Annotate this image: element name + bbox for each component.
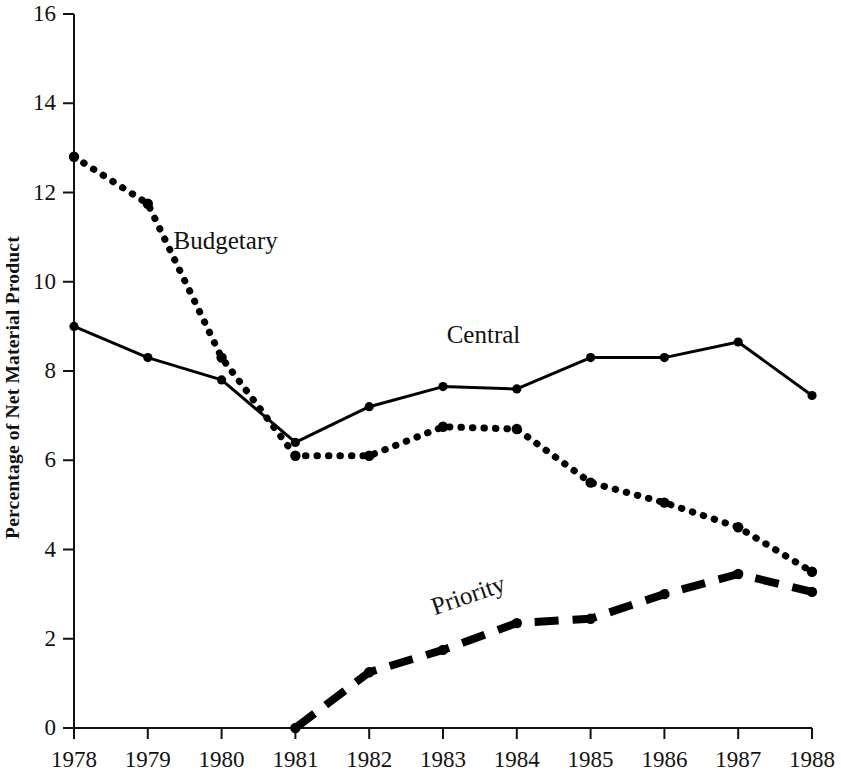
data-point-marker — [733, 569, 743, 579]
data-point-marker — [216, 352, 226, 362]
data-point-marker — [512, 384, 521, 393]
y-axis-tick-label: 14 — [33, 91, 56, 114]
data-point-marker — [660, 353, 669, 362]
data-point-marker — [143, 353, 152, 362]
data-point-marker — [143, 199, 153, 209]
data-point-marker — [585, 614, 595, 624]
data-point-marker — [290, 451, 300, 461]
data-point-marker — [734, 337, 743, 346]
x-axis-tick-label: 1988 — [767, 748, 841, 771]
data-point-marker — [69, 152, 79, 162]
data-point-marker — [659, 497, 669, 507]
data-point-marker — [69, 322, 78, 331]
data-point-marker — [438, 645, 448, 655]
series-line-priority — [295, 574, 812, 728]
data-point-marker — [364, 451, 374, 461]
y-axis-tick-label: 12 — [33, 181, 56, 204]
data-point-marker — [733, 522, 743, 532]
line-chart: Percentage of Net Material Product 02468… — [0, 0, 841, 775]
plot-area — [0, 0, 841, 775]
data-point-marker — [512, 618, 522, 628]
data-point-marker — [807, 587, 817, 597]
series-line-budgetary — [74, 157, 812, 572]
data-point-marker — [364, 667, 374, 677]
y-axis-tick-label: 2 — [45, 627, 57, 650]
data-point-marker — [512, 424, 522, 434]
data-point-marker — [438, 422, 448, 432]
data-point-marker — [586, 353, 595, 362]
y-axis-tick-label: 6 — [45, 448, 57, 471]
series-label-budgetary: Budgetary — [174, 228, 278, 253]
data-point-marker — [659, 589, 669, 599]
data-point-marker — [365, 402, 374, 411]
data-point-marker — [217, 375, 226, 384]
data-point-marker — [438, 382, 447, 391]
y-axis-tick-label: 10 — [33, 270, 56, 293]
y-axis-tick-label: 16 — [33, 2, 56, 25]
y-axis-tick-label: 0 — [45, 716, 57, 739]
data-point-marker — [807, 567, 817, 577]
data-point-marker — [291, 438, 300, 447]
data-point-marker — [807, 391, 816, 400]
y-axis-tick-label: 4 — [45, 538, 57, 561]
y-axis-tick-label: 8 — [45, 359, 57, 382]
series-label-central: Central — [447, 322, 521, 347]
data-point-marker — [585, 477, 595, 487]
data-point-marker — [290, 723, 300, 733]
